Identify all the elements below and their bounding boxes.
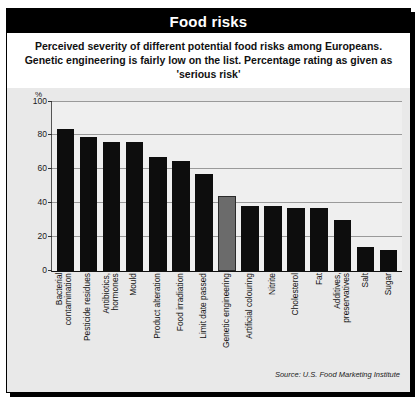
x-axis-tick-label: Additives, preservatives xyxy=(333,273,351,323)
x-axis-tick-label: Mould xyxy=(129,273,138,296)
chart-figure: Food risks Perceived severity of differe… xyxy=(6,8,411,393)
bar-slot xyxy=(354,102,377,271)
x-axis-label-slot: Genetic engineering xyxy=(215,273,238,365)
x-axis-label-slot: Fat xyxy=(308,273,331,365)
bar-slot xyxy=(239,102,262,271)
x-axis-tick-label: Sugar xyxy=(384,273,393,295)
y-axis-tick-label: 20 xyxy=(38,231,47,241)
y-axis-tick-label: 60 xyxy=(38,163,47,173)
bar-slot xyxy=(285,102,308,271)
x-axis-label-slot: Salt xyxy=(354,273,377,365)
chart-subtitle-container: Perceived severity of different potentia… xyxy=(7,33,410,88)
y-axis-tick-label: 100 xyxy=(33,96,47,106)
x-axis-tick-label: Food irradiation xyxy=(176,273,185,331)
x-axis-tick-label: Product alteration xyxy=(153,273,162,339)
plot-canvas: 020406080100 xyxy=(51,102,402,272)
x-axis-label-slot: Product alteration xyxy=(146,273,169,365)
screenshot-root: Food risks Perceived severity of differe… xyxy=(0,0,419,407)
bar-slot xyxy=(192,102,215,271)
bar-slot xyxy=(146,102,169,271)
x-axis-label-slot: Artificial colouring xyxy=(238,273,261,365)
bar xyxy=(264,206,282,270)
x-axis-tick-label: Nitrite xyxy=(268,273,277,295)
bar xyxy=(241,206,259,270)
bar xyxy=(334,220,352,271)
chart-plot-area: % 020406080100 Bacterial contaminationPe… xyxy=(7,88,410,385)
x-axis-label-slot: Cholesterol xyxy=(284,273,307,365)
chart-title-bar: Food risks xyxy=(7,9,410,33)
x-axis-tick-label: Bacterial contamination xyxy=(55,273,73,325)
x-axis-tick-label: Limit date passed xyxy=(199,273,208,339)
bar-slot xyxy=(123,102,146,271)
bar xyxy=(149,157,167,270)
y-axis-tick-label: 40 xyxy=(38,197,47,207)
x-axis-tick-label: Salt xyxy=(361,273,370,287)
bar-slot xyxy=(77,102,100,271)
bar xyxy=(380,250,398,270)
bar-slot xyxy=(262,102,285,271)
x-axis-tick-label: Cholesterol xyxy=(291,273,300,315)
x-axis-label-slot: Additives, preservatives xyxy=(331,273,354,365)
bar-slot xyxy=(377,102,400,271)
bar-slot xyxy=(331,102,354,271)
x-axis-tick-label: Antibiotics, hormones xyxy=(102,273,120,314)
bar xyxy=(287,208,305,271)
x-axis-label-slot: Limit date passed xyxy=(192,273,215,365)
bar xyxy=(172,161,190,271)
bar-slot xyxy=(169,102,192,271)
x-axis-label-slot: Bacterial contamination xyxy=(53,273,76,365)
x-axis-tick-label: Fat xyxy=(315,273,324,285)
chart-subtitle: Perceived severity of different potentia… xyxy=(19,39,398,82)
x-axis-labels-group: Bacterial contaminationPesticide residue… xyxy=(51,273,402,365)
y-axis-tick-label: 80 xyxy=(38,129,47,139)
bar xyxy=(80,137,98,271)
x-axis-label-slot: Food irradiation xyxy=(169,273,192,365)
bar xyxy=(357,247,375,271)
bar-slot xyxy=(215,102,238,271)
x-axis-label-slot: Nitrite xyxy=(261,273,284,365)
x-axis-tick-label: Genetic engineering xyxy=(222,273,231,348)
bar xyxy=(57,129,75,271)
bar xyxy=(218,196,236,270)
bars-group xyxy=(52,102,402,271)
x-axis-label-slot: Mould xyxy=(122,273,145,365)
source-note: Source: U.S. Food Marketing Institute xyxy=(275,370,400,379)
y-axis-tick-label: 0 xyxy=(42,265,47,275)
bar-slot xyxy=(100,102,123,271)
bar xyxy=(103,142,121,270)
x-axis-label-slot: Pesticide residues xyxy=(76,273,99,365)
x-axis-label-slot: Antibiotics, hormones xyxy=(99,273,122,365)
x-axis-tick-label: Pesticide residues xyxy=(83,273,92,341)
bar xyxy=(195,174,213,270)
page-title: Food risks xyxy=(170,13,248,30)
bar-slot xyxy=(308,102,331,271)
bar xyxy=(126,142,144,270)
bar-slot xyxy=(54,102,77,271)
x-axis-label-slot: Sugar xyxy=(377,273,400,365)
bar xyxy=(310,208,328,271)
x-axis-tick-label: Artificial colouring xyxy=(245,273,254,339)
